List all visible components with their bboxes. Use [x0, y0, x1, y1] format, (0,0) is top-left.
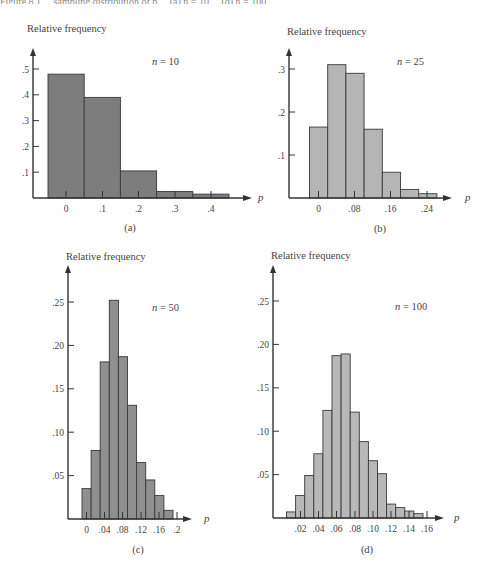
histogram-bar — [305, 475, 314, 518]
x-tick-label: .08 — [349, 524, 361, 534]
y-tick-label: .05 — [52, 471, 64, 481]
histogram-bar — [109, 300, 118, 519]
x-tick-label: 0 — [84, 525, 89, 535]
histogram-bar — [118, 357, 127, 519]
y-tick-label: .20 — [257, 340, 269, 350]
histogram-bar — [137, 463, 146, 519]
chart-panel-d: Relative frequencyp.05.10.15.20.25.02.04… — [257, 250, 460, 556]
chart-panel-b: Relative frequencyp.1.2.30.08.16.24n = 2… — [278, 26, 471, 235]
x-tick-label: .12 — [135, 525, 147, 535]
histogram-figure: Relative frequencyp.1.2.3.4.50.1.2.3.4n … — [0, 0, 487, 571]
y-tick-label: .10 — [52, 428, 64, 438]
panel-subtitle: (a) — [124, 222, 136, 234]
y-axis-arrow-icon — [30, 48, 36, 56]
x-tick-label: .24 — [421, 204, 433, 214]
x-tick-label: .08 — [117, 525, 129, 535]
x-axis-arrow-icon — [243, 195, 252, 201]
histogram-bar — [346, 73, 364, 198]
y-tick-label: .10 — [257, 427, 269, 437]
x-tick-label: .16 — [421, 524, 433, 534]
histogram-bar — [382, 172, 400, 198]
x-axis-arrow-icon — [443, 195, 452, 201]
y-axis-label: Relative frequency — [66, 251, 146, 262]
x-tick-label: 0 — [64, 204, 69, 214]
sample-size-annotation: n = 100 — [395, 301, 427, 312]
y-axis-arrow-icon — [286, 48, 292, 56]
y-tick-label: .5 — [22, 65, 29, 75]
panel-subtitle: (b) — [374, 223, 387, 235]
sample-size-annotation: n = 25 — [397, 56, 424, 67]
x-tick-label: .4 — [207, 204, 214, 214]
histogram-bar — [48, 74, 84, 198]
histogram-bar — [146, 480, 155, 519]
histogram-bar — [332, 356, 341, 518]
panel-subtitle: (d) — [361, 544, 374, 556]
y-axis-label: Relative frequency — [287, 26, 367, 37]
y-tick-label: .1 — [22, 168, 29, 178]
x-axis-label: p — [257, 191, 264, 203]
y-axis-arrow-icon — [270, 265, 276, 273]
x-axis-arrow-icon — [183, 516, 192, 522]
x-tick-label: .02 — [295, 524, 307, 534]
x-tick-label: .12 — [385, 524, 397, 534]
histogram-bar — [359, 442, 368, 518]
histogram-bar — [164, 510, 173, 519]
x-tick-label: .08 — [349, 204, 361, 214]
histogram-bar — [84, 97, 120, 198]
x-tick-label: 0 — [316, 204, 321, 214]
y-tick-label: .3 — [22, 116, 29, 126]
y-axis-label: Relative frequency — [27, 23, 107, 34]
x-tick-label: .1 — [99, 204, 106, 214]
y-tick-label: .1 — [278, 151, 285, 161]
x-axis-arrow-icon — [435, 515, 444, 521]
chart-panel-a: Relative frequencyp.1.2.3.4.50.1.2.3.4n … — [22, 23, 264, 234]
y-tick-label: .15 — [257, 383, 269, 393]
y-tick-label: .20 — [52, 341, 64, 351]
y-tick-label: .25 — [257, 297, 269, 307]
panel-subtitle: (c) — [132, 544, 144, 556]
x-tick-label: .16 — [153, 525, 165, 535]
x-tick-label: .2 — [135, 204, 142, 214]
histogram-bar — [341, 354, 350, 518]
y-tick-label: .25 — [52, 298, 64, 308]
y-tick-label: .2 — [278, 108, 285, 118]
x-tick-label: .04 — [99, 525, 111, 535]
y-axis-arrow-icon — [65, 265, 71, 273]
x-axis-label: p — [453, 511, 460, 523]
histogram-bar — [396, 508, 405, 518]
y-tick-label: .05 — [257, 470, 269, 480]
x-tick-label: .2 — [173, 525, 180, 535]
histogram-bar — [128, 405, 137, 519]
x-tick-label: .10 — [367, 524, 379, 534]
histogram-bar — [350, 412, 359, 518]
sample-size-annotation: n = 50 — [152, 302, 179, 313]
histogram-bar — [100, 362, 109, 519]
histogram-bar — [368, 461, 377, 518]
histogram-bar — [364, 129, 382, 198]
histogram-bar — [287, 512, 296, 518]
x-tick-label: .3 — [171, 204, 178, 214]
histogram-bar — [401, 189, 419, 198]
y-tick-label: .15 — [52, 384, 64, 394]
sample-size-annotation: n = 10 — [152, 56, 179, 67]
histogram-bar — [328, 65, 346, 198]
x-tick-label: .04 — [313, 524, 325, 534]
x-tick-label: .16 — [385, 204, 397, 214]
histogram-bar — [323, 410, 332, 518]
histogram-bar — [314, 454, 323, 518]
y-axis-label: Relative frequency — [271, 250, 351, 261]
x-axis-label: p — [464, 191, 471, 203]
x-axis-label: p — [203, 512, 210, 524]
y-tick-label: .4 — [22, 90, 29, 100]
x-tick-label: .14 — [403, 524, 415, 534]
histogram-bar — [310, 127, 328, 198]
histogram-bar — [378, 474, 387, 518]
chart-panel-c: Relative frequencyp.05.10.15.20.250.04.0… — [52, 251, 210, 556]
histogram-bar — [91, 450, 100, 519]
x-tick-label: .06 — [331, 524, 343, 534]
y-tick-label: .2 — [22, 142, 29, 152]
y-tick-label: .3 — [278, 65, 285, 75]
